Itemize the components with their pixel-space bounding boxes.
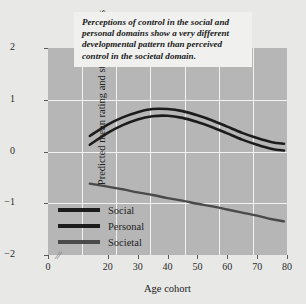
legend-label-personal: Personal (108, 221, 144, 232)
y-tick-label: 0 (0, 145, 15, 156)
x-tick-label: 60 (214, 261, 240, 272)
legend-item-social: Social (58, 202, 176, 218)
legend-swatch-personal (58, 224, 100, 228)
legend-swatch-social (58, 208, 100, 212)
y-tick-mark (44, 48, 48, 49)
legend-swatch-societal (58, 240, 100, 244)
x-tick-mark (287, 255, 288, 259)
legend-label-societal: Societal (108, 237, 142, 248)
line-personal (90, 116, 284, 151)
x-tick-label: 30 (125, 261, 151, 272)
x-tick-label: 50 (184, 261, 210, 272)
x-tick-label: 20 (95, 261, 121, 272)
x-tick-mark (227, 255, 228, 259)
x-tick-mark (48, 255, 49, 259)
legend: Social Personal Societal (58, 202, 176, 250)
x-tick-label: 70 (244, 261, 270, 272)
x-tick-mark (108, 255, 109, 259)
y-tick-label: 1 (0, 93, 15, 104)
y-tick-label: −1 (0, 196, 15, 207)
x-tick-mark (257, 255, 258, 259)
legend-item-societal: Societal (58, 234, 176, 250)
annotation-callout: Perceptions of control in the social and… (74, 12, 252, 67)
chart-figure: Social Personal Societal Predicted mean … (0, 0, 306, 304)
y-tick-label: −2 (0, 248, 15, 259)
y-tick-mark (44, 152, 48, 153)
y-tick-mark (44, 203, 48, 204)
x-tick-label: 40 (155, 261, 181, 272)
x-axis-title: Age cohort (48, 283, 287, 294)
legend-label-social: Social (108, 205, 134, 216)
y-tick-mark (44, 100, 48, 101)
y-tick-label: 2 (0, 41, 15, 52)
x-tick-mark (168, 255, 169, 259)
x-tick-label: 0 (35, 261, 61, 272)
x-tick-mark (138, 255, 139, 259)
legend-item-personal: Personal (58, 218, 176, 234)
x-tick-mark (197, 255, 198, 259)
plot-area: Social Personal Societal (48, 48, 287, 255)
x-tick-label: 80 (274, 261, 300, 272)
